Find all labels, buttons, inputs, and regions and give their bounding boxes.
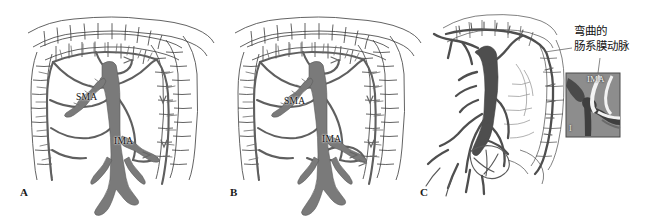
panel-a-artwork: .bw{fill:none;stroke:#3b3b3b;stroke-widt… bbox=[0, 0, 658, 216]
panel-b-artwork bbox=[235, 17, 421, 215]
panel-c-aorta bbox=[426, 22, 555, 196]
panel-c-artwork bbox=[426, 15, 564, 196]
panel-b-ima-label: IMA bbox=[322, 134, 341, 144]
panel-label-c: C bbox=[420, 186, 428, 198]
panel-c-colon bbox=[443, 15, 564, 184]
panel-b-sma-label: SMA bbox=[284, 96, 306, 106]
panel-label-b: B bbox=[230, 186, 237, 198]
panel-a-ima-label: IMA bbox=[114, 136, 133, 146]
inset-corner-label: I bbox=[569, 124, 572, 133]
panel-label-a: A bbox=[20, 186, 28, 198]
inset-ima-label: IMA bbox=[587, 74, 605, 84]
panel-a-sma-label: SMA bbox=[76, 92, 98, 102]
figure-canvas: .bw{fill:none;stroke:#3b3b3b;stroke-widt… bbox=[0, 0, 658, 216]
tortuous-mesenteric-artery-annotation: 弯曲的 肠系膜动脉 bbox=[574, 24, 629, 54]
